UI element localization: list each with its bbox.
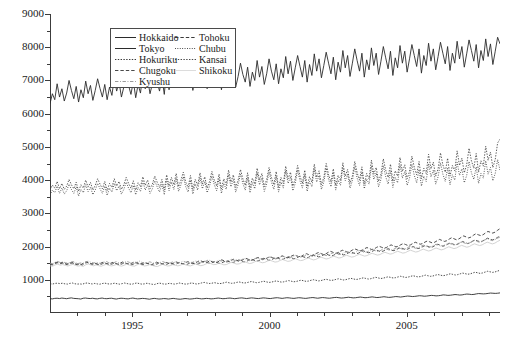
y-tick-label: 9000 <box>22 8 44 19</box>
x-tick-minor <box>379 313 380 316</box>
x-tick-minor <box>77 313 78 316</box>
legend-key-icon <box>115 45 136 52</box>
y-tick-label: 7000 <box>22 74 44 85</box>
series-line-kyushu <box>50 237 500 264</box>
x-tick-minor <box>462 313 463 316</box>
legend-key-icon <box>115 67 136 74</box>
y-tick-label: 4000 <box>22 174 44 185</box>
y-tick-label: 8000 <box>22 41 44 52</box>
y-tick-label: 6000 <box>22 108 44 119</box>
legend-key-icon <box>115 34 136 41</box>
y-tick-label: 5000 <box>22 141 44 152</box>
legend-key-icon <box>175 45 196 52</box>
x-tick-minor <box>105 313 106 316</box>
legend-grid: HokkaidoTohokuTokyoChubuHokurikuKansaiCh… <box>115 32 231 87</box>
x-tick-label: 2000 <box>259 320 281 331</box>
series-line-hokkaido <box>50 293 500 299</box>
legend-label: Chubu <box>199 44 226 54</box>
series-line-hokuriku <box>50 270 500 284</box>
legend-key-icon <box>115 78 136 85</box>
x-tick-minor <box>297 313 298 316</box>
x-tick-minor <box>352 313 353 316</box>
legend-entry-chubu: Chubu <box>175 43 237 54</box>
chart-legend: HokkaidoTohokuTokyoChubuHokurikuKansaiCh… <box>110 28 236 88</box>
x-tick-minor <box>489 313 490 316</box>
x-tick-minor <box>187 313 188 316</box>
series-line-chugoku <box>50 236 500 265</box>
legend-entry-tokyo: Tokyo <box>115 43 175 54</box>
legend-label: Kansai <box>199 55 227 65</box>
series-line-shikoku <box>50 240 500 266</box>
legend-label: Shikoku <box>199 66 232 76</box>
legend-entry-tohoku: Tohoku <box>175 32 237 43</box>
x-tick-label: 2005 <box>396 320 418 331</box>
legend-label: Tohoku <box>199 33 229 43</box>
x-tick-minor <box>160 313 161 316</box>
x-tick-minor <box>242 313 243 316</box>
legend-label: Hokuriku <box>139 55 177 65</box>
legend-entry-chugoku: Chugoku <box>115 65 175 76</box>
x-tick-minor <box>434 313 435 316</box>
legend-key-icon <box>175 34 196 41</box>
x-tick-major <box>270 313 271 317</box>
x-tick-label: 1995 <box>121 320 143 331</box>
legend-entry-kyushu: Kyushu <box>115 76 175 87</box>
plot-area: HokkaidoTohokuTokyoChubuHokurikuKansaiCh… <box>50 14 500 313</box>
legend-key-icon <box>175 67 196 74</box>
legend-key-icon <box>175 56 196 63</box>
legend-entry-hokkaido: Hokkaido <box>115 32 175 43</box>
legend-entry-kansai: Kansai <box>175 54 237 65</box>
x-tick-minor <box>215 313 216 316</box>
legend-entry-hokuriku: Hokuriku <box>115 54 175 65</box>
x-tick-major <box>407 313 408 317</box>
y-tick-label: 2000 <box>22 241 44 252</box>
legend-label: Kyushu <box>139 77 170 87</box>
chart-figure: HokkaidoTohokuTokyoChubuHokurikuKansaiCh… <box>0 0 516 343</box>
legend-label: Tokyo <box>139 44 164 54</box>
y-tick-label: 3000 <box>22 207 44 218</box>
legend-label: Hokkaido <box>139 33 178 43</box>
legend-label: Chugoku <box>139 66 176 76</box>
x-tick-minor <box>324 313 325 316</box>
y-tick-label: 1000 <box>22 274 44 285</box>
legend-key-icon <box>115 56 136 63</box>
x-tick-major <box>132 313 133 317</box>
legend-entry-shikoku: Shikoku <box>175 65 237 76</box>
